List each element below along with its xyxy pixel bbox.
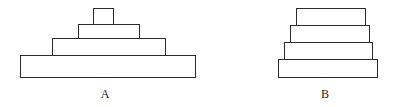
figure-a-label: A	[85, 88, 125, 100]
figure-b-tier-third	[284, 42, 373, 60]
figure-a-tier-second	[78, 24, 140, 39]
figure-a-tier-third	[52, 38, 166, 56]
figure-b-tier-second	[290, 25, 370, 43]
figure-canvas: A B	[0, 0, 402, 107]
figure-a-tier-base	[20, 55, 196, 78]
figure-b-label: B	[305, 88, 345, 100]
figure-b-tier-base	[278, 59, 378, 78]
figure-a-tier-top	[93, 8, 114, 25]
figure-b-tier-top	[296, 8, 366, 26]
